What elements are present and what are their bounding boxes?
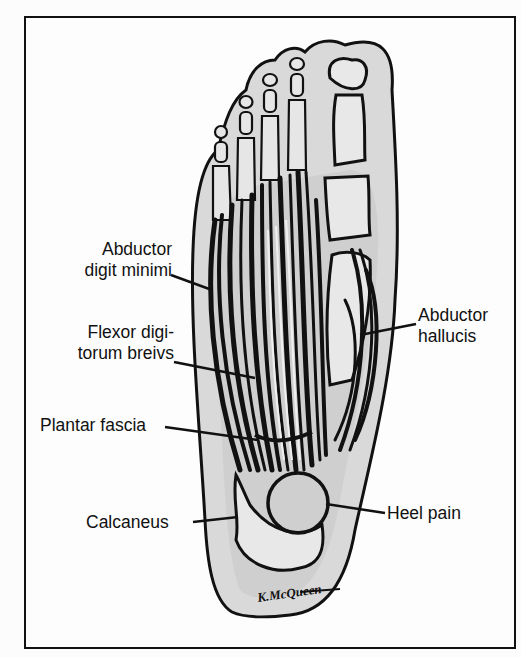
label-line: torum breivs — [60, 343, 174, 364]
label-abductor-digiti-minimi: Abductor digit minimi — [76, 239, 172, 281]
label-line: digit minimi — [76, 260, 172, 281]
label-line: hallucis — [418, 326, 488, 347]
label-line: Abductor — [76, 239, 172, 260]
label-line: Flexor digi- — [60, 322, 174, 343]
label-flexor-digitorum-brevis: Flexor digi- torum breivs — [60, 322, 174, 364]
label-abductor-hallucis: Abductor hallucis — [418, 305, 488, 347]
label-calcaneus: Calcaneus — [86, 512, 169, 533]
label-line: Abductor — [418, 305, 488, 326]
label-plantar-fascia: Plantar fascia — [40, 415, 146, 436]
label-heel-pain: Heel pain — [387, 503, 461, 524]
